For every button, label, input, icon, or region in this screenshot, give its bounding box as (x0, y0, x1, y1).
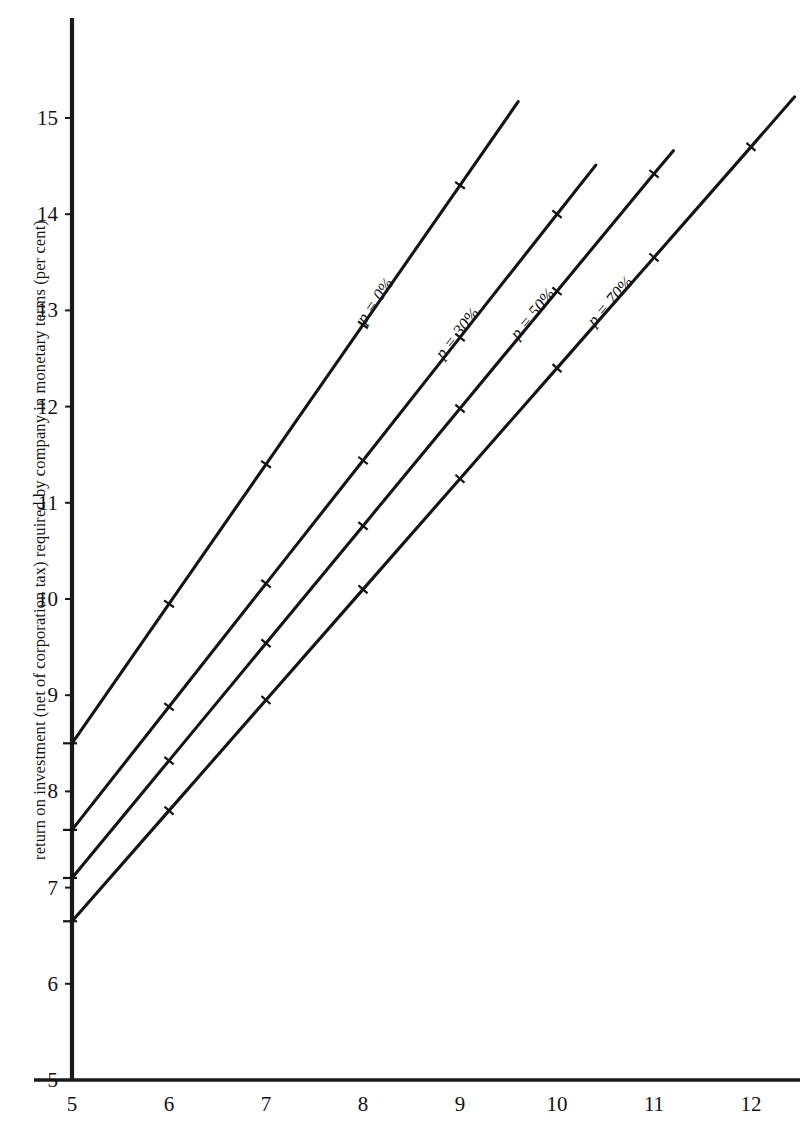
y-tick-label: 6 (0, 973, 58, 994)
series-line-3 (72, 97, 795, 921)
x-tick-label: 9 (455, 1094, 466, 1115)
series-line-0 (72, 102, 518, 744)
series-line-2 (72, 151, 673, 878)
y-axis-title: return on investment (net of corporation… (30, 160, 50, 920)
x-tick-label: 7 (261, 1094, 272, 1115)
x-tick-label: 10 (547, 1094, 568, 1115)
x-tick-label: 5 (67, 1094, 78, 1115)
x-tick-label: 6 (164, 1094, 175, 1115)
plot-canvas (0, 0, 802, 1127)
x-tick-label: 12 (741, 1094, 762, 1115)
chart-figure: 5678910111213141556789101112 p = 0%p = 3… (0, 0, 802, 1127)
data-series-group (72, 97, 795, 921)
y-tick-label: 5 (0, 1070, 58, 1091)
y-tick-label: 15 (0, 108, 58, 129)
series-line-1 (72, 165, 596, 830)
x-tick-label: 8 (358, 1094, 369, 1115)
axes-group (34, 18, 800, 1080)
x-tick-label: 11 (644, 1094, 664, 1115)
